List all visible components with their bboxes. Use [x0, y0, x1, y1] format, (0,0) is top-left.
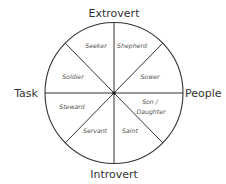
segment-label-soldier: Soldier: [62, 73, 84, 80]
segment-label-shepherd: Shepherd: [117, 42, 147, 50]
axis-label-left: Task: [13, 87, 38, 100]
segment-label-saint: Saint: [122, 127, 138, 134]
segment-label-seeker: Seeker: [85, 42, 107, 49]
axis-label-right: People: [185, 87, 222, 100]
segment-label-son-daughter-line1: Son /: [142, 98, 159, 105]
axis-label-bottom: Introvert: [90, 168, 138, 181]
axis-label-top: Extrovert: [89, 7, 141, 20]
segment-label-servant: Servant: [83, 127, 108, 134]
center-dot: [112, 91, 115, 94]
octant-wheel-diagram: Extrovert Introvert Task People Seeker S…: [0, 0, 226, 184]
segment-label-sower: Sower: [140, 73, 160, 80]
segment-label-son-daughter-line2: Daughter: [136, 108, 166, 116]
segment-label-steward: Steward: [59, 103, 85, 110]
